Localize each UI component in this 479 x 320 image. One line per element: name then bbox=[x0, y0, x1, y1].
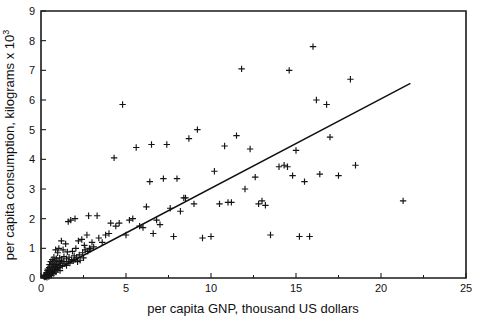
scatter-point bbox=[194, 126, 200, 132]
x-tick-label: 10 bbox=[205, 282, 217, 294]
scatter-point bbox=[186, 135, 192, 141]
scatter-point bbox=[160, 175, 166, 181]
scatter-point bbox=[84, 232, 90, 238]
y-tick-label: 6 bbox=[29, 94, 35, 106]
scatter-point bbox=[147, 178, 153, 184]
axes-frame bbox=[41, 11, 466, 278]
scatter-point bbox=[58, 238, 64, 244]
scatter-point bbox=[247, 146, 253, 152]
scatter-point bbox=[286, 67, 292, 73]
scatter-point bbox=[221, 143, 227, 149]
scatter-point bbox=[126, 217, 132, 223]
y-axis-label-superscript: 3 bbox=[1, 30, 11, 35]
scatter-point bbox=[94, 213, 100, 219]
scatter-point bbox=[267, 232, 273, 238]
scatter-point bbox=[252, 174, 258, 180]
scatter-point bbox=[85, 213, 91, 219]
scatter-point bbox=[177, 208, 183, 214]
y-tick-label: 9 bbox=[29, 5, 35, 17]
y-axis-label-main: per capita consumption, kilograms x 10 bbox=[2, 35, 17, 260]
scatter-point bbox=[111, 155, 117, 161]
y-tick-label: 8 bbox=[29, 35, 35, 47]
scatter-point bbox=[310, 43, 316, 49]
x-tick-label: 15 bbox=[290, 282, 302, 294]
scatter-point bbox=[228, 199, 234, 205]
scatter-point bbox=[327, 134, 333, 140]
scatter-point bbox=[238, 66, 244, 72]
scatter-point bbox=[148, 141, 154, 147]
axis-ticks bbox=[41, 11, 466, 278]
scatter-point bbox=[211, 168, 217, 174]
scatter-point bbox=[113, 223, 119, 229]
scatter-point bbox=[400, 198, 406, 204]
y-tick-label: 0 bbox=[29, 272, 35, 284]
scatter-point bbox=[284, 164, 290, 170]
scatter-point bbox=[216, 201, 222, 207]
scatter-point bbox=[174, 175, 180, 181]
scatter-point bbox=[170, 233, 176, 239]
scatter-point bbox=[119, 101, 125, 107]
scatter-point bbox=[276, 164, 282, 170]
scatter-point bbox=[56, 245, 62, 251]
scatter-point bbox=[317, 171, 323, 177]
x-tick-label: 20 bbox=[375, 282, 387, 294]
scatter-point bbox=[73, 245, 79, 251]
scatter-point bbox=[150, 230, 156, 236]
regression-line bbox=[46, 84, 410, 275]
x-tick-label: 5 bbox=[123, 282, 129, 294]
scatter-point bbox=[106, 230, 112, 236]
scatter-point bbox=[347, 76, 353, 82]
y-tick-label: 1 bbox=[29, 242, 35, 254]
scatter-point bbox=[81, 242, 87, 248]
scatter-point bbox=[242, 186, 248, 192]
scatter-point bbox=[157, 221, 163, 227]
scatter-point bbox=[289, 172, 295, 178]
scatter-point bbox=[130, 215, 136, 221]
y-axis-label: per capita consumption, kilograms x 103 bbox=[1, 30, 17, 260]
scatter-point bbox=[301, 178, 307, 184]
scatter-point bbox=[281, 162, 287, 168]
scatter-point bbox=[199, 235, 205, 241]
scatter-point bbox=[233, 132, 239, 138]
scatter-point bbox=[259, 198, 265, 204]
scatter-point bbox=[75, 238, 81, 244]
scatter-point bbox=[102, 232, 108, 238]
y-tick-label: 7 bbox=[29, 64, 35, 76]
scatter-point bbox=[352, 162, 358, 168]
y-tick-label: 4 bbox=[29, 153, 35, 165]
scatter-point bbox=[133, 144, 139, 150]
scatter-point bbox=[164, 141, 170, 147]
scatter-point bbox=[96, 235, 102, 241]
y-tick-label: 5 bbox=[29, 124, 35, 136]
scatter-point bbox=[108, 220, 114, 226]
scatter-point bbox=[323, 101, 329, 107]
scatter-point bbox=[143, 204, 149, 210]
scatter-point bbox=[262, 202, 268, 208]
scatter-point bbox=[191, 201, 197, 207]
scatter-point bbox=[296, 233, 302, 239]
scatter-point bbox=[79, 236, 85, 242]
scatter-plot-figure: 05101520250123456789 per capita GNP, tho… bbox=[0, 0, 479, 320]
scatter-point bbox=[116, 220, 122, 226]
x-tick-label: 0 bbox=[38, 282, 44, 294]
plot-canvas: 05101520250123456789 per capita GNP, tho… bbox=[0, 0, 479, 320]
scatter-point bbox=[72, 215, 78, 221]
scatter-point bbox=[208, 233, 214, 239]
y-tick-label: 3 bbox=[29, 183, 35, 195]
scatter-point bbox=[335, 172, 341, 178]
fit-line bbox=[46, 84, 410, 275]
scatter-point bbox=[255, 201, 261, 207]
scatter-point bbox=[313, 97, 319, 103]
scatter-markers bbox=[41, 43, 406, 280]
x-tick-label: 25 bbox=[460, 282, 472, 294]
y-tick-label: 2 bbox=[29, 213, 35, 225]
x-axis-label: per capita GNP, thousand US dollars bbox=[147, 301, 359, 316]
scatter-point bbox=[306, 233, 312, 239]
scatter-point bbox=[62, 241, 68, 247]
scatter-point bbox=[293, 147, 299, 153]
